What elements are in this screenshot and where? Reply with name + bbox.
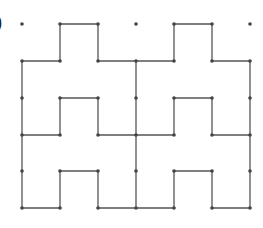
grid-dot [248,96,252,100]
grid-dot [96,59,100,63]
grid-dot [58,133,62,137]
path-segments [22,24,250,208]
grid-dot [210,22,214,26]
grid-dot [58,96,62,100]
grid-dot [20,133,24,137]
grid-dot [58,206,62,210]
grid-dot [248,133,252,137]
grid-dot [20,59,24,63]
grid-dot [210,96,214,100]
grid-dot [58,169,62,173]
grid-dot [172,96,176,100]
grid-dot [134,206,138,210]
grid-dot [210,169,214,173]
grid-dot [248,169,252,173]
grid-dot [134,133,138,137]
grid-dot [134,169,138,173]
grid-dot [96,169,100,173]
grid-dot [20,206,24,210]
grid-dot [172,206,176,210]
grid-dot [20,96,24,100]
grid-dot [210,206,214,210]
grid-dot [20,22,24,26]
grid-dot [172,133,176,137]
grid-dot [20,169,24,173]
grid-dot [96,133,100,137]
grid-dot [248,59,252,63]
grid-dot [248,206,252,210]
grid-dot [58,59,62,63]
grid-dot [172,59,176,63]
grid-dot [96,22,100,26]
grid-dot [58,22,62,26]
grid-dot [210,133,214,137]
grid-dot [134,59,138,63]
grid-dot [172,169,176,173]
grid-dot [134,96,138,100]
grid-path-diagram [0,0,263,228]
grid-dot [172,22,176,26]
grid-dot [248,22,252,26]
grid-dot [210,59,214,63]
grid-dot [96,96,100,100]
grid-dot [134,22,138,26]
grid-dot [96,206,100,210]
